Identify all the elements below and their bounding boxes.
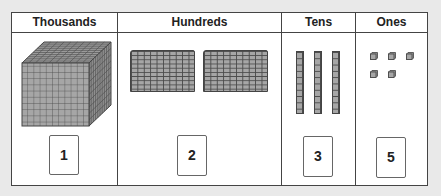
column-ones: Ones 5 <box>356 13 427 185</box>
column-hundreds: Hundreds 2 <box>118 13 282 185</box>
ten-rod-icon <box>296 51 304 114</box>
header-hundreds: Hundreds <box>118 13 281 33</box>
unit-cube-icon <box>370 70 378 78</box>
thousand-cube-icon <box>21 41 113 127</box>
ten-rod-icon <box>332 51 340 114</box>
header-tens: Tens <box>282 13 355 33</box>
header-ones: Ones <box>356 13 427 33</box>
unit-cube-icon <box>388 52 396 60</box>
header-thousands: Thousands <box>12 13 117 33</box>
column-thousands: Thousands <box>12 13 118 185</box>
column-tens: Tens 3 <box>282 13 356 185</box>
ten-rod-icon <box>314 51 322 114</box>
hundred-flat-icon <box>130 50 195 92</box>
hundred-flat-icon <box>203 50 268 92</box>
unit-cube-icon <box>388 70 396 78</box>
digit-card-ones: 5 <box>376 137 406 178</box>
unit-cube-icon <box>370 52 378 60</box>
place-value-chart: Thousands <box>11 12 428 186</box>
unit-cube-icon <box>406 52 414 60</box>
digit-card-tens: 3 <box>303 136 333 177</box>
digit-card-hundreds: 2 <box>177 135 207 176</box>
digit-card-thousands: 1 <box>49 135 79 175</box>
